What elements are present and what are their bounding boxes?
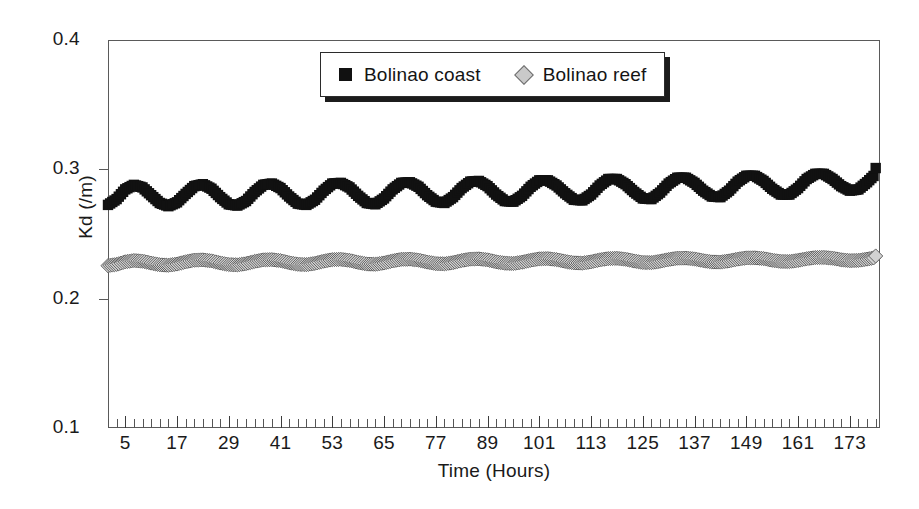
x-minor-tick — [401, 419, 402, 428]
x-minor-tick — [651, 419, 652, 428]
x-minor-tick — [669, 419, 670, 428]
x-major-tick — [850, 416, 851, 428]
legend[interactable]: Bolinao coast Bolinao reef — [320, 52, 665, 97]
x-minor-tick — [720, 419, 721, 428]
x-major-tick — [177, 416, 178, 428]
x-minor-tick — [298, 419, 299, 428]
x-minor-tick — [470, 419, 471, 428]
x-minor-tick — [462, 419, 463, 428]
x-minor-tick — [358, 419, 359, 428]
x-minor-tick — [755, 419, 756, 428]
x-minor-tick — [289, 419, 290, 428]
x-tick-label: 173 — [820, 432, 880, 454]
x-minor-tick — [660, 419, 661, 428]
x-minor-tick — [824, 419, 825, 428]
x-minor-tick — [427, 419, 428, 428]
x-minor-tick — [729, 419, 730, 428]
x-minor-tick — [807, 419, 808, 428]
x-minor-tick — [738, 419, 739, 428]
y-tick-label: 0.1 — [24, 416, 80, 438]
x-major-tick — [281, 416, 282, 428]
x-minor-tick — [186, 419, 187, 428]
x-minor-tick — [557, 419, 558, 428]
x-minor-tick — [531, 419, 532, 428]
x-minor-tick — [117, 419, 118, 428]
chart-figure: Kd (/m) 0.40.30.20.1 5172941536577891011… — [0, 0, 919, 509]
x-minor-tick — [608, 419, 609, 428]
x-minor-tick — [246, 419, 247, 428]
x-minor-tick — [876, 419, 877, 428]
x-minor-tick — [841, 419, 842, 428]
x-minor-tick — [263, 419, 264, 428]
x-minor-tick — [574, 419, 575, 428]
x-minor-tick — [772, 419, 773, 428]
x-major-tick — [436, 416, 437, 428]
x-minor-tick — [634, 419, 635, 428]
x-minor-tick — [367, 419, 368, 428]
x-minor-tick — [712, 419, 713, 428]
x-minor-tick — [375, 419, 376, 428]
y-tick-mark — [99, 299, 108, 300]
x-major-tick — [539, 416, 540, 428]
x-minor-tick — [479, 419, 480, 428]
x-minor-tick — [505, 419, 506, 428]
x-minor-tick — [617, 419, 618, 428]
x-major-tick — [488, 416, 489, 428]
x-minor-tick — [686, 419, 687, 428]
x-major-tick — [643, 416, 644, 428]
x-minor-tick — [858, 419, 859, 428]
x-minor-tick — [393, 419, 394, 428]
x-minor-tick — [444, 419, 445, 428]
x-minor-tick — [582, 419, 583, 428]
x-minor-tick — [867, 419, 868, 428]
y-axis-ticks: 0.40.30.20.1 — [0, 0, 108, 509]
x-minor-tick — [237, 419, 238, 428]
x-minor-tick — [453, 419, 454, 428]
x-minor-tick — [677, 419, 678, 428]
x-major-tick — [332, 416, 333, 428]
x-minor-tick — [419, 419, 420, 428]
legend-item-bolinao-coast[interactable]: Bolinao coast — [339, 64, 481, 86]
y-tick-label: 0.2 — [24, 287, 80, 309]
diamond-marker-icon — [514, 65, 534, 85]
x-major-tick — [746, 416, 747, 428]
x-minor-tick — [815, 419, 816, 428]
x-axis-title: Time (Hours) — [108, 460, 880, 482]
x-minor-tick — [160, 419, 161, 428]
x-major-tick — [229, 416, 230, 428]
x-minor-tick — [626, 419, 627, 428]
square-marker-icon — [339, 68, 352, 81]
x-minor-tick — [212, 419, 213, 428]
x-major-tick — [591, 416, 592, 428]
y-tick-mark — [99, 169, 108, 170]
y-tick-label: 0.4 — [24, 28, 80, 50]
x-minor-tick — [410, 419, 411, 428]
x-minor-tick — [548, 419, 549, 428]
x-minor-tick — [781, 419, 782, 428]
x-minor-tick — [134, 419, 135, 428]
x-minor-tick — [272, 419, 273, 428]
x-minor-tick — [350, 419, 351, 428]
x-minor-tick — [341, 419, 342, 428]
legend-label-coast: Bolinao coast — [364, 64, 481, 86]
x-minor-tick — [255, 419, 256, 428]
x-minor-tick — [764, 419, 765, 428]
legend-item-bolinao-reef[interactable]: Bolinao reef — [517, 64, 647, 86]
x-minor-tick — [108, 419, 109, 428]
x-minor-tick — [789, 419, 790, 428]
x-minor-tick — [565, 419, 566, 428]
legend-label-reef: Bolinao reef — [543, 64, 647, 86]
x-major-tick — [384, 416, 385, 428]
x-minor-tick — [522, 419, 523, 428]
x-minor-tick — [143, 419, 144, 428]
x-minor-tick — [600, 419, 601, 428]
x-major-tick — [798, 416, 799, 428]
x-minor-tick — [315, 419, 316, 428]
x-major-tick — [695, 416, 696, 428]
x-minor-tick — [194, 419, 195, 428]
y-tick-label: 0.3 — [24, 157, 80, 179]
x-minor-tick — [151, 419, 152, 428]
x-minor-tick — [220, 419, 221, 428]
x-minor-tick — [324, 419, 325, 428]
x-minor-tick — [513, 419, 514, 428]
